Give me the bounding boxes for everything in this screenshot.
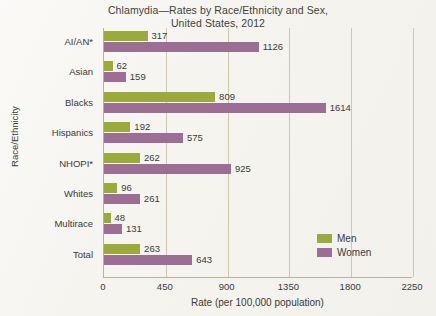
legend-item-men: Men bbox=[317, 231, 371, 245]
x-tick-1350: 1350 bbox=[278, 281, 299, 292]
bar-value-label: 62 bbox=[113, 61, 128, 71]
bar-men bbox=[104, 122, 130, 132]
bar-men bbox=[104, 183, 117, 193]
bar-group: 262925 bbox=[104, 153, 412, 175]
bar-value-label: 131 bbox=[122, 224, 142, 234]
bar-women bbox=[104, 255, 192, 265]
bar-men bbox=[104, 213, 111, 223]
bar-group: 62159 bbox=[104, 61, 412, 83]
bar-value-label: 317 bbox=[148, 31, 168, 41]
bar-men bbox=[104, 153, 140, 163]
chart-title-line-1: Chlamydia—Rates by Race/Ethnicity and Se… bbox=[0, 4, 436, 17]
x-tick-0: 0 bbox=[100, 281, 105, 292]
bar-value-label: 575 bbox=[183, 133, 203, 143]
bar-value-label: 261 bbox=[140, 194, 160, 204]
y-axis-category-aian: AI/AN* bbox=[64, 36, 93, 47]
bar-value-label: 1126 bbox=[259, 42, 283, 52]
bar-women bbox=[104, 42, 259, 52]
x-tick-900: 900 bbox=[219, 281, 235, 292]
bar-women bbox=[104, 103, 326, 113]
bar-men bbox=[104, 61, 113, 71]
y-axis-category-total: Total bbox=[73, 249, 93, 260]
y-axis-category-labels: AI/AN*AsianBlacksHispanicsNHOPI*WhitesMu… bbox=[0, 28, 99, 278]
y-axis-category-multirace: Multirace bbox=[54, 218, 93, 229]
bar-men bbox=[104, 244, 140, 254]
bar-women bbox=[104, 164, 231, 174]
bar-men bbox=[104, 31, 148, 41]
bar-group: 192575 bbox=[104, 122, 412, 144]
y-axis-category-hispanics: Hispanics bbox=[52, 127, 93, 138]
bar-value-label: 262 bbox=[140, 153, 160, 163]
gridline-2250 bbox=[413, 28, 414, 277]
x-tick-1800: 1800 bbox=[340, 281, 361, 292]
x-tick-450: 450 bbox=[157, 281, 173, 292]
y-axis-category-whites: Whites bbox=[64, 188, 93, 199]
bar-women bbox=[104, 194, 140, 204]
bar-value-label: 1614 bbox=[326, 103, 351, 113]
bar-group: 96261 bbox=[104, 183, 412, 205]
bar-women bbox=[104, 133, 183, 143]
bar-value-label: 192 bbox=[130, 122, 150, 132]
legend-label-women: Women bbox=[337, 247, 371, 258]
x-tick-2250: 2250 bbox=[401, 281, 422, 292]
y-axis-category-nhopi: NHOPI* bbox=[59, 158, 93, 169]
bar-value-label: 925 bbox=[231, 164, 251, 174]
chart-legend: MenWomen bbox=[317, 231, 371, 259]
y-axis-category-blacks: Blacks bbox=[65, 97, 93, 108]
chart-title: Chlamydia—Rates by Race/Ethnicity and Se… bbox=[0, 4, 436, 29]
bar-value-label: 48 bbox=[111, 213, 126, 223]
x-axis-title: Rate (per 100,000 population) bbox=[103, 297, 412, 308]
chart-figure: Chlamydia—Rates by Race/Ethnicity and Se… bbox=[0, 0, 436, 316]
bar-men bbox=[104, 92, 215, 102]
bar-value-label: 96 bbox=[117, 183, 132, 193]
bar-women bbox=[104, 224, 122, 234]
bar-value-label: 643 bbox=[192, 255, 212, 265]
bar-women bbox=[104, 72, 126, 82]
bar-value-label: 809 bbox=[215, 92, 235, 102]
y-axis-category-asian: Asian bbox=[69, 66, 93, 77]
legend-swatch-women bbox=[317, 248, 332, 257]
bar-value-label: 159 bbox=[126, 72, 146, 82]
bar-group: 3171126 bbox=[104, 31, 412, 53]
bar-group: 8091614 bbox=[104, 92, 412, 114]
legend-item-women: Women bbox=[317, 245, 371, 259]
legend-swatch-men bbox=[317, 234, 332, 243]
x-axis-tick-labels: 0450900135018002250 bbox=[103, 279, 412, 295]
bar-value-label: 263 bbox=[140, 244, 160, 254]
legend-label-men: Men bbox=[337, 233, 356, 244]
